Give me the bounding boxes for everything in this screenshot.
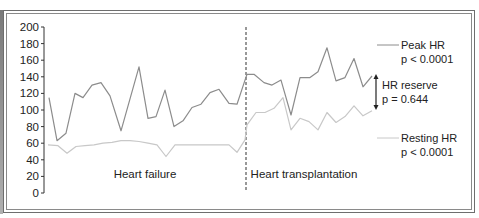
peak-hr-label: Peak HR bbox=[401, 39, 445, 51]
hr-reserve-label: HR reserve bbox=[382, 79, 438, 91]
y-tick-label: 180 bbox=[20, 38, 39, 50]
hr-reserve-arrow bbox=[374, 74, 379, 110]
heart-rate-chart: 020406080100120140160180200 Heart failur… bbox=[0, 0, 479, 218]
y-tick-label: 140 bbox=[20, 71, 39, 83]
region-label-heart-transplantation: Heart transplantation bbox=[251, 168, 358, 180]
resting-hr-label: Resting HR bbox=[401, 132, 457, 144]
y-tick-label: 100 bbox=[20, 104, 39, 116]
series-group bbox=[48, 48, 372, 157]
resting-hr-line bbox=[48, 98, 372, 157]
y-axis: 020406080100120140160180200 bbox=[20, 21, 44, 199]
y-tick-label: 160 bbox=[20, 54, 39, 66]
y-tick-label: 0 bbox=[33, 187, 39, 199]
peak-hr-pvalue: p < 0.0001 bbox=[401, 53, 453, 65]
y-tick-label: 200 bbox=[20, 21, 39, 33]
region-label-heart-failure: Heart failure bbox=[114, 168, 177, 180]
y-tick-label: 40 bbox=[26, 154, 39, 166]
y-tick-label: 60 bbox=[26, 137, 39, 149]
peak-hr-line bbox=[49, 48, 372, 141]
y-tick-label: 120 bbox=[20, 87, 39, 99]
y-tick-label: 20 bbox=[26, 170, 39, 182]
resting-hr-pvalue: p < 0.0001 bbox=[401, 146, 453, 158]
y-tick-label: 80 bbox=[26, 121, 39, 133]
hr-reserve-pvalue: p = 0.644 bbox=[382, 93, 428, 105]
